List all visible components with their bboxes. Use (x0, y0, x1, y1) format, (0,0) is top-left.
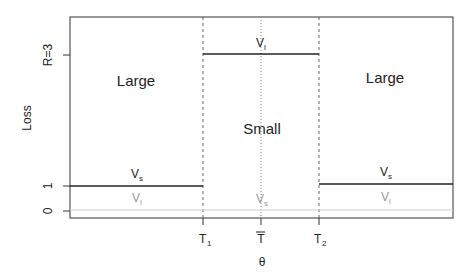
svg-text:T: T (257, 232, 265, 246)
svg-text:s: s (139, 174, 143, 183)
svg-text:V: V (256, 36, 264, 50)
label-vl-baseline-right: V l (381, 190, 391, 206)
label-vs-left: V s (131, 167, 143, 183)
label-vl-middle: V l (256, 36, 266, 52)
svg-text:s: s (388, 172, 392, 181)
region-small: Small (243, 120, 281, 137)
svg-text:1: 1 (207, 239, 212, 248)
xtick-t1-label: T 1 (199, 232, 212, 248)
xtick-tbar-label: T (256, 232, 265, 246)
svg-text:V: V (380, 165, 388, 179)
ytick-0-label: 0 (41, 207, 55, 214)
loss-chart: R=3 1 0 Loss T 1 T T 2 θ Large Small Lar… (0, 0, 475, 278)
label-vl-baseline-left: V l (132, 191, 142, 207)
svg-text:l: l (389, 197, 391, 206)
svg-text:l: l (140, 198, 142, 207)
svg-text:T: T (314, 232, 322, 246)
label-vs-right: V s (380, 165, 392, 181)
svg-text:l: l (264, 43, 266, 52)
y-axis-title: Loss (20, 105, 34, 130)
svg-text:V: V (131, 167, 139, 181)
svg-text:V: V (132, 191, 140, 205)
label-vs-baseline-middle: V s (256, 192, 268, 208)
svg-text:T: T (199, 232, 207, 246)
ytick-r-label: R=3 (41, 44, 55, 67)
svg-text:V: V (256, 192, 264, 206)
x-axis-title: θ (259, 255, 266, 269)
ytick-1-label: 1 (41, 182, 55, 189)
svg-text:s: s (264, 199, 268, 208)
xtick-t2-label: T 2 (314, 232, 327, 248)
svg-text:V: V (381, 190, 389, 204)
region-large-left: Large (117, 72, 155, 89)
region-large-right: Large (366, 69, 404, 86)
svg-text:2: 2 (322, 239, 327, 248)
